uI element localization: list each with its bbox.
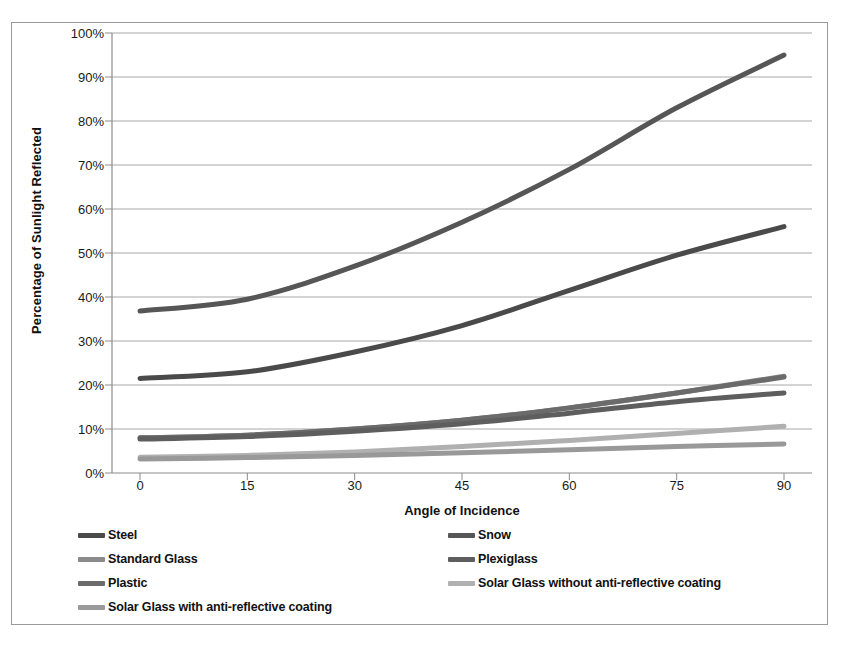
legend-item[interactable]: Solar Glass without anti-reflective coat… bbox=[448, 576, 818, 590]
x-tick-label: 45 bbox=[455, 478, 469, 493]
legend-row: Solar Glass with anti-reflective coating bbox=[78, 595, 818, 619]
legend-item-label: Snow bbox=[478, 528, 511, 542]
plot-area bbox=[112, 33, 812, 473]
series-line bbox=[140, 55, 784, 311]
legend-item-label: Standard Glass bbox=[108, 552, 198, 566]
legend-swatch-icon bbox=[448, 581, 475, 586]
legend-swatch-icon bbox=[78, 533, 105, 538]
x-tick-label: 60 bbox=[562, 478, 576, 493]
legend-item[interactable]: Plastic bbox=[78, 576, 448, 590]
legend-row: Standard GlassPlexiglass bbox=[78, 547, 818, 571]
series-layer bbox=[112, 33, 812, 473]
y-axis-tick-labels: 0%10%20%30%40%50%60%70%80%90%100% bbox=[52, 23, 108, 493]
legend-item-label: Plastic bbox=[108, 576, 147, 590]
legend-item[interactable]: Plexiglass bbox=[448, 552, 818, 566]
y-tick-label: 40% bbox=[78, 290, 104, 305]
y-tick-label: 90% bbox=[78, 70, 104, 85]
legend-swatch-icon bbox=[78, 581, 105, 586]
y-tick-label: 80% bbox=[78, 114, 104, 129]
y-tick-label: 100% bbox=[71, 26, 104, 41]
y-tick-label: 0% bbox=[85, 466, 104, 481]
legend-swatch-icon bbox=[448, 557, 475, 562]
y-axis-title: Percentage of Sunlight Reflected bbox=[29, 121, 44, 341]
legend-swatch-icon bbox=[78, 605, 105, 610]
legend-row: PlasticSolar Glass without anti-reflecti… bbox=[78, 571, 818, 595]
series-line bbox=[140, 377, 784, 438]
legend-item-label: Solar Glass without anti-reflective coat… bbox=[478, 576, 721, 590]
y-tick-label: 70% bbox=[78, 158, 104, 173]
y-tick-label: 60% bbox=[78, 202, 104, 217]
x-tick-label: 75 bbox=[669, 478, 683, 493]
y-tick-label: 50% bbox=[78, 246, 104, 261]
x-tick-label: 30 bbox=[347, 478, 361, 493]
legend-item-label: Plexiglass bbox=[478, 552, 538, 566]
x-tick-label: 90 bbox=[777, 478, 791, 493]
legend-item[interactable]: Steel bbox=[78, 528, 448, 542]
plot-region: Percentage of Sunlight Reflected 0%10%20… bbox=[12, 23, 829, 493]
y-tick-label: 20% bbox=[78, 378, 104, 393]
series-line bbox=[140, 376, 784, 438]
x-axis-tick-labels: 0153045607590 bbox=[112, 478, 812, 502]
legend-item[interactable]: Solar Glass with anti-reflective coating bbox=[78, 600, 818, 614]
chart-legend: SteelSnowStandard GlassPlexiglassPlastic… bbox=[78, 523, 818, 619]
x-tick-label: 15 bbox=[240, 478, 254, 493]
legend-swatch-icon bbox=[448, 533, 475, 538]
x-tick-label: 0 bbox=[136, 478, 143, 493]
legend-row: SteelSnow bbox=[78, 523, 818, 547]
legend-swatch-icon bbox=[78, 557, 105, 562]
legend-item[interactable]: Standard Glass bbox=[78, 552, 448, 566]
chart-frame: Percentage of Sunlight Reflected 0%10%20… bbox=[11, 22, 828, 625]
x-axis-title: Angle of Incidence bbox=[112, 503, 812, 518]
y-tick-label: 10% bbox=[78, 422, 104, 437]
legend-item-label: Solar Glass with anti-reflective coating bbox=[108, 600, 332, 614]
y-tick-label: 30% bbox=[78, 334, 104, 349]
legend-item-label: Steel bbox=[108, 528, 137, 542]
legend-item[interactable]: Snow bbox=[448, 528, 818, 542]
